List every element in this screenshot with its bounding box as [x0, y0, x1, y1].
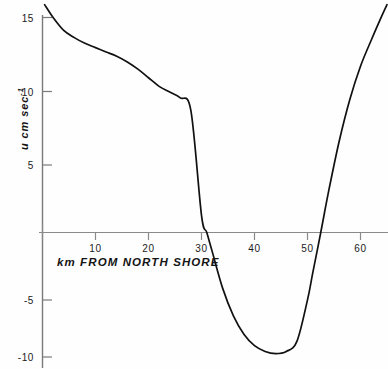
y-tick-label-minus-10: -10 — [2, 352, 34, 363]
y-axis-ticks — [43, 18, 53, 358]
plot-canvas — [0, 0, 388, 369]
y-tick-label-15: 15 — [8, 13, 34, 24]
y-axis-title-exponent: -1 — [16, 87, 25, 95]
y-tick-label-5: 5 — [8, 160, 34, 171]
y-tick-label-minus-5: -5 — [4, 295, 34, 306]
x-tick-label-40: 40 — [248, 243, 260, 254]
x-tick-label-10: 10 — [89, 243, 101, 254]
y-axis-title-main: u cm sec — [18, 96, 30, 150]
x-axis-title: km FROM NORTH SHORE — [57, 256, 220, 268]
y-axis-title: u cm sec-1 — [16, 87, 30, 150]
x-tick-label-50: 50 — [301, 243, 313, 254]
x-tick-label-20: 20 — [142, 243, 154, 254]
velocity-profile-figure: 15 10 5 -5 -10 10 20 30 40 50 60 km FROM… — [0, 0, 388, 369]
velocity-curve — [45, 5, 387, 354]
x-tick-label-30: 30 — [195, 243, 207, 254]
x-tick-label-60: 60 — [354, 243, 366, 254]
